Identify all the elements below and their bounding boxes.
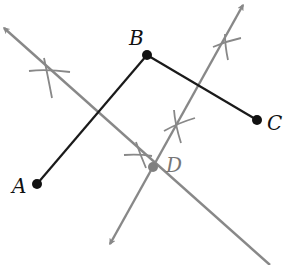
segment-ab [37, 55, 147, 184]
arc-mark-bc-upper [213, 34, 241, 60]
label-a: A [10, 174, 26, 198]
geometry-diagram: A B C D [0, 0, 306, 265]
point-a [32, 179, 42, 189]
label-b: B [128, 26, 144, 50]
point-d [148, 162, 158, 172]
label-d: D [165, 153, 182, 177]
point-c [252, 115, 262, 125]
arc-mark-ab-upper [29, 58, 70, 98]
arc-mark-ab-lower [124, 142, 152, 168]
label-c: C [267, 111, 282, 135]
point-b [142, 50, 152, 60]
segment-bc [147, 55, 257, 120]
